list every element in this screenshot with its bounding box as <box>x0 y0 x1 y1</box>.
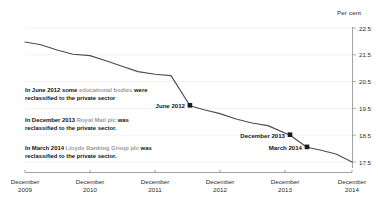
x-tick-label-december-2014: December 2014 <box>338 178 367 193</box>
x-axis <box>25 170 352 173</box>
point-label-december-2013: December 2013 <box>240 131 285 138</box>
x-tick-label-line1: December <box>338 178 367 186</box>
x-tick-label-line2: 2011 <box>141 186 170 194</box>
annotation-december-2013: In December 2013 Royal Mail plc was recl… <box>25 117 129 132</box>
y-axis-unit-label: Per cent <box>337 9 361 16</box>
y-tick-label-3: 19.5 <box>359 105 371 112</box>
x-tick-label-line1: December <box>11 178 40 186</box>
marker-march-2014 <box>305 145 310 150</box>
annotation-text-pre: In June 2012 some <box>25 87 79 93</box>
x-tick-label-december-2011: December 2011 <box>141 178 170 193</box>
x-tick-label-line2: 2014 <box>338 186 367 194</box>
x-tick-label-december-2010: December 2010 <box>76 178 105 193</box>
annotation-line-2: reclassified to the private sector. <box>25 125 129 133</box>
y-tick-label-5: 17.5 <box>359 159 371 166</box>
annotation-text-post: was <box>139 145 152 151</box>
annotation-line-1: In June 2012 some educational bodies wer… <box>25 87 147 95</box>
annotation-line-1: In December 2013 Royal Mail plc was <box>25 117 129 125</box>
x-tick-label-december-2009: December 2009 <box>11 178 40 193</box>
x-tick-label-december-2013: December 2013 <box>271 178 300 193</box>
x-tick-label-line2: 2009 <box>11 186 40 194</box>
x-tick-label-line2: 2013 <box>271 186 300 194</box>
annotation-link-royal-mail-plc[interactable]: Royal Mail plc <box>77 117 116 123</box>
x-tick-label-line2: 2012 <box>206 186 235 194</box>
y-tick-label-1: 21.5 <box>359 51 371 58</box>
annotation-text-post: was <box>116 117 129 123</box>
line-chart: Per cent 22.5 21.5 20.5 19.5 18.5 17.5 D… <box>0 0 378 211</box>
marker-june-2012 <box>188 103 193 108</box>
annotation-link-educational-bodies[interactable]: educational bodies <box>79 87 132 93</box>
x-tick-label-line2: 2010 <box>76 186 105 194</box>
point-label-march-2014: March 2014 <box>269 143 302 150</box>
annotation-text-pre: In December 2013 <box>25 117 77 123</box>
annotation-line-1: In March 2014 Lloyds Banking Group plc w… <box>25 145 152 153</box>
y-tick-label-4: 18.5 <box>359 132 371 139</box>
y-tick-label-2: 20.5 <box>359 78 371 85</box>
annotation-line-2: reclassified to the private sector. <box>25 153 152 161</box>
annotation-text-pre: In March 2014 <box>25 145 66 151</box>
x-tick-label-line1: December <box>141 178 170 186</box>
annotation-june-2012: In June 2012 some educational bodies wer… <box>25 87 147 102</box>
chart-plot-area <box>0 0 378 211</box>
y-tick-label-0: 22.5 <box>359 25 371 32</box>
point-label-june-2012: June 2012 <box>156 102 185 109</box>
annotation-line-2: reclassified to the private sector <box>25 95 147 103</box>
x-tick-label-line1: December <box>206 178 235 186</box>
x-tick-label-line1: December <box>271 178 300 186</box>
x-tick-label-december-2012: December 2012 <box>206 178 235 193</box>
annotation-march-2014: In March 2014 Lloyds Banking Group plc w… <box>25 145 152 160</box>
x-tick-label-line1: December <box>76 178 105 186</box>
annotation-text-post: were <box>132 87 147 93</box>
annotation-link-lloyds-banking-group-plc[interactable]: Lloyds Banking Group plc <box>66 145 139 151</box>
y-axis <box>353 27 357 168</box>
marker-december-2013 <box>288 132 293 137</box>
